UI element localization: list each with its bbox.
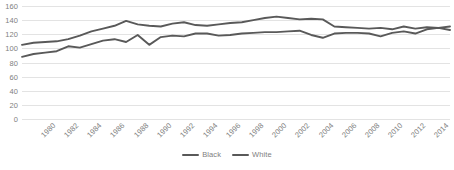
y-axis: 020406080100120140160 — [0, 0, 22, 125]
y-axis-tick-label: 0 — [14, 115, 18, 124]
x-axis-tick-label: 1996 — [224, 121, 242, 139]
y-axis-tick-label: 60 — [9, 72, 18, 81]
x-axis-tick-label: 2000 — [270, 121, 288, 139]
y-axis-tick-label: 100 — [5, 44, 18, 53]
x-axis-tick-label: 1994 — [201, 121, 219, 139]
x-axis-tick-label: 2014 — [432, 121, 450, 139]
legend-swatch-icon — [182, 154, 199, 156]
x-axis-tick-label: 2012 — [409, 121, 427, 139]
x-axis-tick-label: 1984 — [85, 121, 103, 139]
y-axis-tick-label: 40 — [9, 86, 18, 95]
x-axis-tick-label: 2004 — [317, 121, 335, 139]
x-axis-tick-label: 1988 — [132, 121, 150, 139]
y-axis-tick-label: 160 — [5, 2, 18, 11]
x-axis: 1980198219841986198819901992199419961998… — [22, 119, 450, 151]
legend-swatch-icon — [232, 154, 249, 156]
x-axis-tick-label: 1990 — [155, 121, 173, 139]
legend-item-white[interactable]: White — [232, 150, 272, 159]
legend-label: White — [252, 150, 272, 159]
series-line-black — [22, 17, 450, 45]
x-axis-tick-label: 2006 — [340, 121, 358, 139]
y-axis-tick-label: 140 — [5, 16, 18, 25]
x-axis-tick-label: 1982 — [62, 121, 80, 139]
line-chart: 020406080100120140160 198019821984198619… — [0, 0, 454, 170]
y-axis-tick-label: 20 — [9, 100, 18, 109]
legend-label: Black — [202, 150, 221, 159]
legend-item-black[interactable]: Black — [182, 150, 221, 159]
x-axis-tick-label: 1986 — [108, 121, 126, 139]
x-axis-tick-label: 2008 — [363, 121, 381, 139]
x-axis-tick-label: 1998 — [247, 121, 265, 139]
x-axis-tick-label: 2002 — [293, 121, 311, 139]
x-axis-tick-label: 1992 — [178, 121, 196, 139]
y-axis-tick-label: 80 — [9, 58, 18, 67]
x-axis-tick-label: 2010 — [386, 121, 404, 139]
y-axis-tick-label: 120 — [5, 30, 18, 39]
series-line-white — [22, 28, 450, 57]
chart-legend: BlackWhite — [0, 150, 454, 159]
plot-area — [22, 6, 450, 119]
x-axis-tick-label: 1980 — [39, 121, 57, 139]
series-container — [22, 6, 450, 119]
